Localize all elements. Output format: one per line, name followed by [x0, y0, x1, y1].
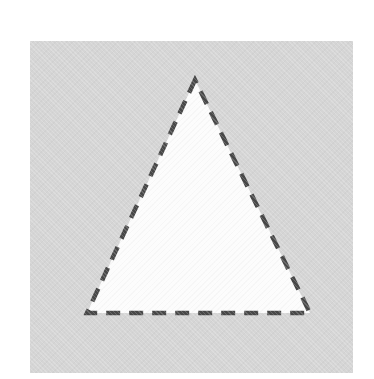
gray-square: [30, 41, 353, 373]
page-background: [0, 0, 374, 379]
triangle-figure: [30, 41, 353, 373]
